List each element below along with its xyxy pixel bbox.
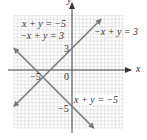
legend-line-1: x + y = −5 — [22, 19, 66, 29]
line-a-label: −x + y = 3 — [94, 27, 138, 37]
x-axis-label: x — [136, 64, 140, 74]
line-b-label: x + y = −5 — [73, 95, 119, 105]
y-axis-label: y — [67, 0, 71, 5]
y-tick-label-neg5: −5 — [58, 104, 69, 114]
x-tick-label-neg5: −5 — [30, 72, 41, 82]
legend-line-2: −x + y = 3 — [20, 31, 64, 41]
y-tick-label-3: 3 — [64, 44, 69, 54]
origin-label: 0 — [64, 72, 69, 82]
